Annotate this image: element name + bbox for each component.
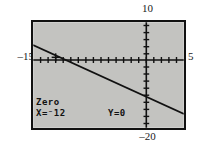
zero-readout-x-value: X=⁻12 [36,108,66,118]
calculator-figure: 10 –15 5 –20 [0,0,205,152]
window-ymin-label: –20 [125,130,170,142]
y-axis [144,22,150,128]
y-axis-ticks [144,26,150,124]
calculator-screen: Zero X=⁻12 Y=0 [31,20,186,130]
zero-readout-y-value: Y=0 [108,108,126,118]
zero-readout-title: Zero [36,97,60,107]
window-xmin-label: –15 [2,50,34,62]
window-ymax-label: 10 [125,2,170,14]
window-xmax-label: 5 [188,50,204,62]
